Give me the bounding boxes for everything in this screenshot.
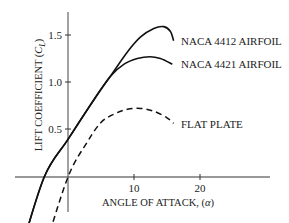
x-axis-title: ANGLE OF ATTACK, (α) (102, 197, 215, 209)
legend-naca-4421: NACA 4421 AIRFOIL (181, 58, 282, 70)
x-tick-label-20: 20 (195, 182, 207, 194)
legend-naca-4412: NACA 4412 AIRFOIL (181, 35, 282, 47)
y-axis-title: LIFT COEFFICIENT (CL) (33, 38, 47, 151)
x-tick-label-10: 10 (129, 182, 141, 194)
y-tick-label-1.0: 1.0 (48, 76, 62, 88)
y-tick-label-0.5: 0.5 (48, 123, 62, 135)
y-tick-label-1.5: 1.5 (48, 29, 62, 41)
legend-flat-plate: FLAT PLATE (181, 118, 243, 130)
lift-coefficient-chart: 0.5 1.0 1.5 10 20 ANGLE OF ATTACK, (α) L… (0, 0, 289, 223)
